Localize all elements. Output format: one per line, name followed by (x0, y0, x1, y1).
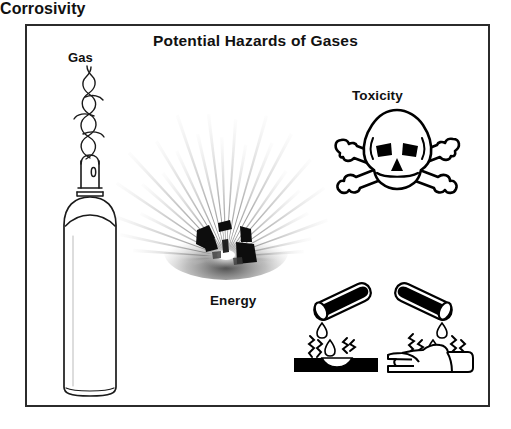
test-tube-on-hand-icon (388, 283, 473, 372)
label-energy: Energy (210, 293, 256, 308)
hazards-figure: Potential Hazards of Gases Gas Energy To… (0, 0, 511, 429)
page-title: Potential Hazards of Gases (0, 32, 511, 50)
test-tube-on-surface-icon (294, 283, 378, 372)
swirling-gas-icon (74, 66, 104, 159)
skull-and-crossbones-icon (330, 105, 465, 203)
label-corrosivity: Corrosivity (0, 0, 86, 18)
explosion-burst-icon (118, 92, 348, 292)
label-toxicity: Toxicity (352, 88, 403, 103)
corrosivity-icon (292, 278, 474, 374)
